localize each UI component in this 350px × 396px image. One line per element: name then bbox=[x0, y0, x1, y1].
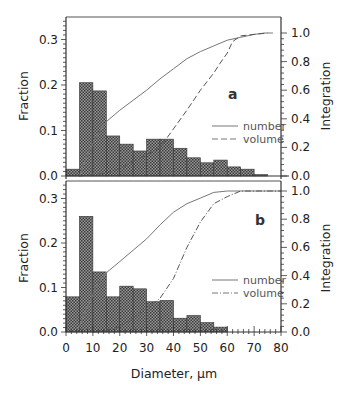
y-tick-label: 0.0 bbox=[39, 325, 58, 339]
x-tick-label: 50 bbox=[193, 341, 208, 355]
y-tick-label: 0.0 bbox=[39, 169, 58, 183]
y2-tick-label: 0.6 bbox=[291, 240, 310, 254]
histogram-bar bbox=[93, 91, 106, 176]
x-tick-label: 0 bbox=[62, 341, 70, 355]
x-tick-label: 70 bbox=[246, 341, 261, 355]
legend-volume-label-b: volume bbox=[243, 287, 284, 300]
legend-volume-label-a: volume bbox=[243, 133, 284, 146]
histogram-bar bbox=[241, 169, 254, 176]
y2-tick-label: 0.4 bbox=[291, 269, 310, 283]
y2-tick-label: 0.0 bbox=[291, 169, 310, 183]
histogram-bar bbox=[147, 139, 160, 176]
y2-tick-label: 0.8 bbox=[291, 212, 310, 226]
legend-b: number volume bbox=[212, 274, 286, 300]
y-axis-title-right-a: Integration bbox=[318, 62, 333, 131]
y2-tick-label: 0.4 bbox=[291, 112, 310, 126]
panel-label-a: a bbox=[228, 86, 237, 102]
histogram-bar bbox=[200, 323, 213, 332]
histogram-bar bbox=[66, 297, 79, 332]
x-axis-title: Diameter, µm bbox=[131, 366, 217, 381]
y-axis-title-right-b: Integration bbox=[318, 224, 333, 293]
particle-size-chart: 0.00.10.20.30.00.20.40.60.81.0 a number … bbox=[0, 0, 350, 396]
y-axis-title-left-b: Fraction bbox=[16, 233, 31, 283]
panel-a: 0.00.10.20.30.00.20.40.60.81.0 a number … bbox=[16, 17, 333, 183]
histogram-bar bbox=[133, 151, 146, 176]
x-tick-label: 80 bbox=[273, 341, 288, 355]
histogram-bar bbox=[133, 289, 146, 332]
y2-tick-label: 0.6 bbox=[291, 83, 310, 97]
y-tick-label: 0.1 bbox=[39, 124, 58, 138]
histogram-bar bbox=[227, 167, 240, 176]
histogram-bar bbox=[174, 318, 187, 332]
y2-tick-label: 0.8 bbox=[291, 55, 310, 69]
x-tick-label: 30 bbox=[139, 341, 154, 355]
panel-label-b: b bbox=[255, 212, 265, 228]
histogram-bars-b bbox=[66, 216, 227, 332]
histogram-bar bbox=[200, 163, 213, 176]
y2-tick-label: 1.0 bbox=[291, 26, 310, 40]
y2-tick-label: 1.0 bbox=[291, 184, 310, 198]
x-tick-label: 10 bbox=[85, 341, 100, 355]
y-axis-title-left-a: Fraction bbox=[16, 71, 31, 121]
histogram-bar bbox=[187, 316, 200, 332]
legend-number-label-b: number bbox=[243, 274, 286, 287]
histogram-bar bbox=[106, 136, 119, 176]
histogram-bar bbox=[214, 327, 227, 332]
y2-tick-label: 0.2 bbox=[291, 140, 310, 154]
x-tick-label: 60 bbox=[220, 341, 235, 355]
y-tick-label: 0.3 bbox=[39, 192, 58, 206]
y-tick-label: 0.3 bbox=[39, 33, 58, 47]
x-tick-label: 20 bbox=[112, 341, 127, 355]
histogram-bar bbox=[120, 144, 133, 176]
legend-number-label-a: number bbox=[243, 120, 286, 133]
y-tick-label: 0.2 bbox=[39, 78, 58, 92]
y2-tick-label: 0.2 bbox=[291, 297, 310, 311]
histogram-bar bbox=[214, 160, 227, 176]
histogram-bar bbox=[174, 148, 187, 176]
histogram-bar bbox=[79, 83, 92, 176]
y-tick-label: 0.1 bbox=[39, 281, 58, 295]
histogram-bar bbox=[147, 302, 160, 332]
histogram-bar bbox=[79, 216, 92, 332]
panel-b: 0.00.10.20.30.00.20.40.60.81.00102030405… bbox=[16, 181, 333, 355]
histogram-bar bbox=[120, 286, 133, 332]
y-tick-label: 0.2 bbox=[39, 236, 58, 250]
x-tick-label: 40 bbox=[166, 341, 181, 355]
y2-tick-label: 0.0 bbox=[291, 325, 310, 339]
histogram-bar bbox=[160, 300, 173, 332]
histogram-bar bbox=[66, 169, 79, 176]
histogram-bar bbox=[187, 158, 200, 176]
legend-a: number volume bbox=[212, 120, 286, 146]
